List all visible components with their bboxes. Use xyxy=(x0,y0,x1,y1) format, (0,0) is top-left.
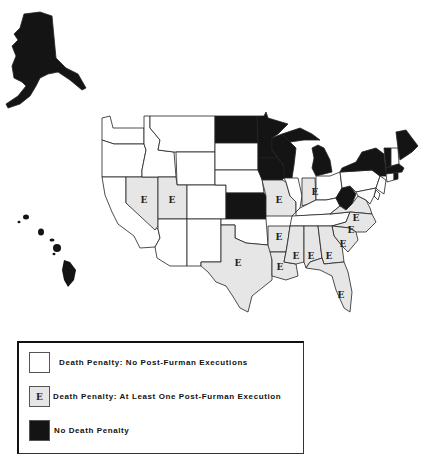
map-legend: Death Penalty: No Post-Furman Executions… xyxy=(17,341,304,454)
state-florida xyxy=(306,258,352,312)
state-hawaii xyxy=(18,215,77,288)
legend-label: Death Penalty: At Least One Post-Furman … xyxy=(53,392,281,401)
exec-marker-north-carolina: E xyxy=(348,225,355,235)
exec-marker-south-carolina: E xyxy=(340,239,347,249)
legend-item-no-death-penalty: No Death Penalty xyxy=(29,420,129,441)
state-north-dakota xyxy=(215,116,258,143)
state-montana xyxy=(150,116,215,152)
legend-label: Death Penalty: No Post-Furman Executions xyxy=(59,358,248,367)
exec-marker-virginia: E xyxy=(353,213,360,223)
exec-marker-alabama: E xyxy=(308,251,315,261)
state-new-hampshire xyxy=(391,148,399,166)
exec-marker-indiana: E xyxy=(312,187,319,197)
state-connecticut xyxy=(386,173,394,182)
legend-swatch-white xyxy=(29,352,50,373)
state-rhode-island xyxy=(394,173,398,180)
legend-item-no-executions: Death Penalty: No Post-Furman Executions xyxy=(29,352,248,373)
legend-swatch-execution: E xyxy=(29,386,50,407)
state-michigan-up xyxy=(282,128,320,142)
state-michigan xyxy=(312,145,332,176)
state-alaska xyxy=(6,12,86,108)
state-oregon xyxy=(102,140,146,177)
state-south-dakota xyxy=(215,143,258,170)
state-maine xyxy=(396,130,418,160)
legend-swatch-black xyxy=(29,420,50,441)
exec-marker-georgia: E xyxy=(326,251,333,261)
exec-marker-louisiana: E xyxy=(277,262,284,272)
legend-label: No Death Penalty xyxy=(54,426,129,435)
exec-marker-mississippi: E xyxy=(293,251,300,261)
state-arizona xyxy=(155,219,187,266)
exec-marker-missouri: E xyxy=(276,195,283,205)
state-washington xyxy=(102,116,144,144)
state-new-mexico xyxy=(187,219,221,266)
state-colorado xyxy=(187,185,226,219)
state-wyoming xyxy=(176,152,215,185)
exec-marker-arkansas: E xyxy=(276,232,283,242)
exec-marker-nevada: E xyxy=(141,195,148,205)
exec-marker-utah: E xyxy=(169,195,176,205)
exec-marker-texas: E xyxy=(235,258,242,268)
state-kansas xyxy=(226,193,266,219)
exec-marker-florida: E xyxy=(338,290,345,300)
legend-item-executions: E Death Penalty: At Least One Post-Furma… xyxy=(29,386,281,407)
us-map: E E E E E E E E E E E E E E xyxy=(0,0,437,340)
